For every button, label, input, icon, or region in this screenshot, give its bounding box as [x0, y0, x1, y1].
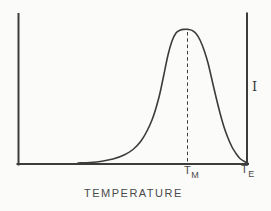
peak-temp-subscript: M	[191, 170, 199, 180]
glow-curve-figure: I TM TE TEMPERATURE	[0, 0, 271, 211]
peak-temp-base: T	[184, 164, 191, 176]
x-axis-label: TEMPERATURE	[84, 187, 183, 199]
plot-canvas	[0, 0, 271, 211]
peak-temp-label: TM	[184, 164, 199, 180]
y-axis-label: I	[252, 79, 257, 94]
glow-curve	[78, 29, 248, 163]
end-temp-subscript: E	[248, 169, 254, 179]
end-temp-label: TE	[241, 163, 254, 179]
end-temp-base: T	[241, 163, 248, 175]
